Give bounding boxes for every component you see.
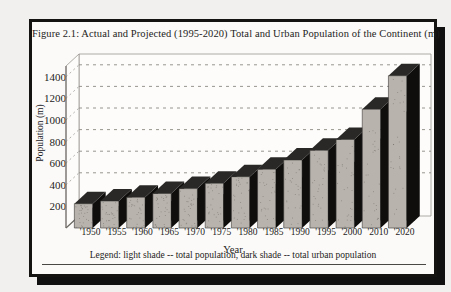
figure-panel: Figure 2.1: Actual and Projected (1995-2… <box>29 19 437 277</box>
x-axis-tick-label: '1950 <box>80 227 101 237</box>
x-axis-tick-label: '1980 <box>237 227 258 237</box>
figure-title: Figure 2.1: Actual and Projected (1995-2… <box>32 28 434 39</box>
x-axis-tick-label: '2020 <box>394 227 415 237</box>
x-axis-tick-label: '1995 <box>315 227 336 237</box>
x-axis-tick-label: '2000 <box>341 227 362 237</box>
x-axis-tick-label: '1960 <box>132 227 153 237</box>
chart-area: Population (m) 200400600800100012001400 … <box>32 44 434 254</box>
x-axis-tick-label: '1985 <box>263 227 284 237</box>
x-axis-tick-label: '1955 <box>106 227 127 237</box>
x-axis-tick-label: '1990 <box>289 227 310 237</box>
x-axis-tick-label: '1965 <box>158 227 179 237</box>
x-axis-tick-label: '1970 <box>184 227 205 237</box>
x-axis-tick-label: '1975 <box>211 227 232 237</box>
chart-legend: Legend: light shade -- total population,… <box>32 250 434 260</box>
bar-chart-plot <box>32 44 434 254</box>
x-axis-tick-label: '2010 <box>368 227 389 237</box>
legend-divider <box>42 264 426 265</box>
figure-screenshot: Figure 2.1: Actual and Projected (1995-2… <box>0 0 451 292</box>
